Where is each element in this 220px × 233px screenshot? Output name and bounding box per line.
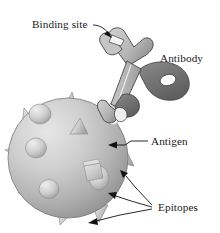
antibody-grip-tip xyxy=(114,107,127,121)
epitope-dome-lower-left xyxy=(39,180,59,199)
label-binding-site: Binding site xyxy=(32,18,88,30)
epitope-dome-upper-left xyxy=(29,104,51,124)
figure-canvas: Binding site Antibody Antigen Epitopes xyxy=(0,0,220,233)
label-antigen: Antigen xyxy=(151,135,188,147)
leader-epitope-arrowhead-3 xyxy=(88,218,98,225)
label-epitopes: Epitopes xyxy=(158,201,198,213)
antibody-molecule xyxy=(97,28,189,123)
label-antibody: Antibody xyxy=(160,52,203,64)
antibody-antigen-figure: Binding site Antibody Antigen Epitopes xyxy=(0,0,220,233)
epitope-dome-mid-left xyxy=(26,138,47,158)
leader-epitope-line-2 xyxy=(116,196,152,207)
